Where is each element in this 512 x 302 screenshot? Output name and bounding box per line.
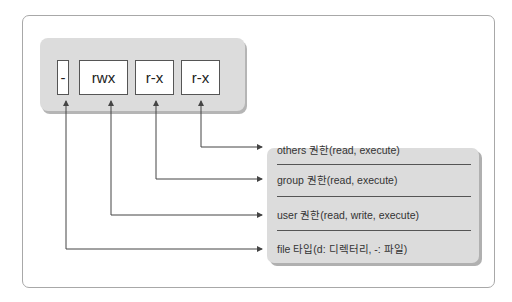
connector-arrows <box>0 0 512 302</box>
